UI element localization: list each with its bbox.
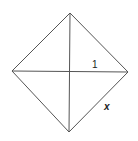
edge-left-top bbox=[12, 13, 70, 71]
square-diagram: 1 x bbox=[0, 0, 138, 141]
diagonal-vertical bbox=[69, 13, 70, 132]
label-side: x bbox=[103, 101, 110, 112]
edge-top-right bbox=[70, 13, 128, 72]
edge-bottom-left bbox=[12, 71, 69, 132]
diagonal-horizontal bbox=[12, 71, 128, 72]
label-half-diagonal: 1 bbox=[92, 59, 98, 70]
edge-right-bottom bbox=[69, 72, 128, 132]
